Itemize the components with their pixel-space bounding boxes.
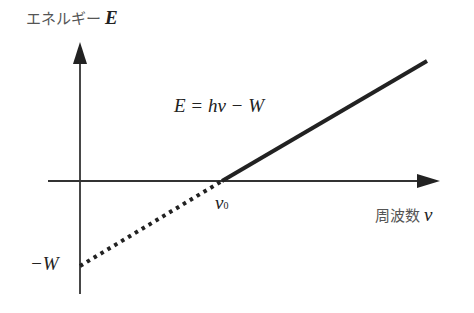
energy-line-dotted bbox=[80, 181, 222, 266]
x-intercept-label: ν0 bbox=[215, 192, 228, 214]
y-axis-label: エネルギー E bbox=[26, 7, 118, 29]
equation-label: E = hν − W bbox=[174, 95, 264, 117]
energy-line-solid bbox=[222, 61, 427, 181]
x-axis-arrow-icon bbox=[417, 174, 440, 188]
y-axis-arrow-icon bbox=[73, 42, 87, 64]
diagram-canvas bbox=[0, 0, 474, 313]
y-intercept-label: −W bbox=[30, 253, 59, 275]
x-axis-label: 周波数 ν bbox=[375, 204, 432, 226]
